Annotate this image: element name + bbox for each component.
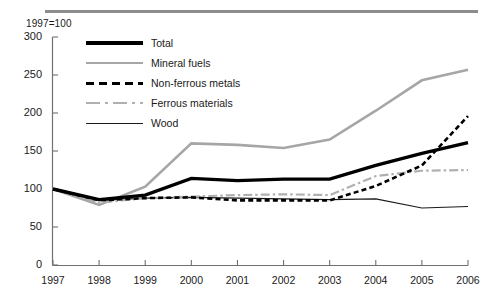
legend-swatch-mineral-fuels-icon [86,56,143,70]
legend-label-wood: Wood [151,116,178,130]
x-tick-label: 1998 [79,274,119,286]
legend-item-mineral-fuels: Mineral fuels [86,53,240,73]
chart-figure: 1997=100 050100150200250300 199719981999… [0,0,484,306]
y-tick-label: 0 [12,258,42,270]
legend-swatch-total-icon [86,36,143,50]
legend-label-ferrous-materials: Ferrous materials [151,96,233,110]
legend-item-wood: Wood [86,113,240,133]
x-tick-label: 2004 [356,274,396,286]
legend-item-non-ferrous-metals: Non-ferrous metals [86,73,240,93]
x-tick-label: 2005 [402,274,442,286]
x-tick-label: 2003 [310,274,350,286]
x-tick-label: 2002 [264,274,304,286]
x-tick-label: 2000 [171,274,211,286]
y-tick-label: 100 [12,182,42,194]
y-tick-label: 250 [12,68,42,80]
x-tick-label: 2001 [217,274,257,286]
legend-swatch-ferrous-materials-icon [86,96,143,110]
x-tick-label: 2006 [448,274,484,286]
series-line-total [53,143,468,200]
legend-swatch-wood-icon [86,116,143,130]
y-tick-label: 150 [12,144,42,156]
line-chart-plot [0,0,484,306]
x-tick-label: 1999 [125,274,165,286]
y-tick-label: 300 [12,30,42,42]
legend-item-total: Total [86,33,240,53]
y-tick-label: 200 [12,106,42,118]
legend-label-total: Total [151,36,173,50]
legend-item-ferrous-materials: Ferrous materials [86,93,240,113]
x-tick-label: 1997 [33,274,73,286]
legend-label-mineral-fuels: Mineral fuels [151,56,211,70]
legend-swatch-non-ferrous-metals-icon [86,76,143,90]
chart-legend: Total Mineral fuels Non-ferrous metals F… [86,33,240,133]
legend-label-non-ferrous-metals: Non-ferrous metals [151,76,240,90]
y-tick-label: 50 [12,220,42,232]
